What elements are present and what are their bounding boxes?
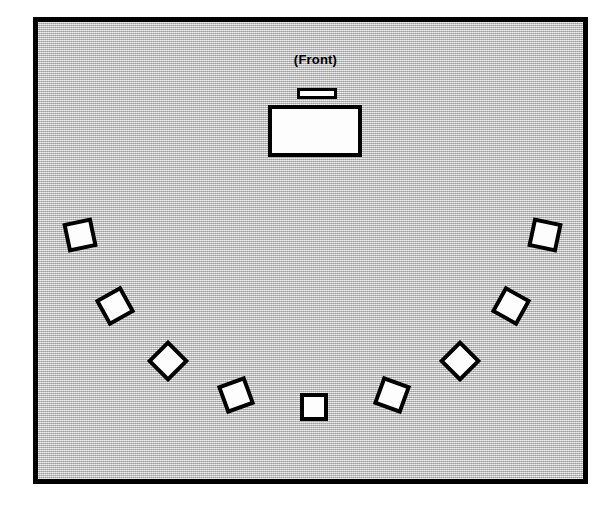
front-label: (Front) [38, 52, 593, 67]
chair-right-lower [439, 340, 481, 382]
chair-far-right [527, 217, 563, 253]
chair-far-left [62, 217, 98, 253]
chair-left-lower [147, 340, 189, 382]
chair-left-inner [217, 376, 255, 414]
chair-right-inner [373, 376, 411, 414]
room-floor-area: (Front) [33, 17, 588, 484]
chair-right-upper [491, 286, 532, 327]
chair-left-upper [95, 286, 136, 327]
chair-center [300, 393, 328, 421]
room-layout-diagram: (Front) [0, 0, 608, 506]
instructor-desk [268, 105, 362, 157]
podium-lectern [297, 88, 337, 99]
